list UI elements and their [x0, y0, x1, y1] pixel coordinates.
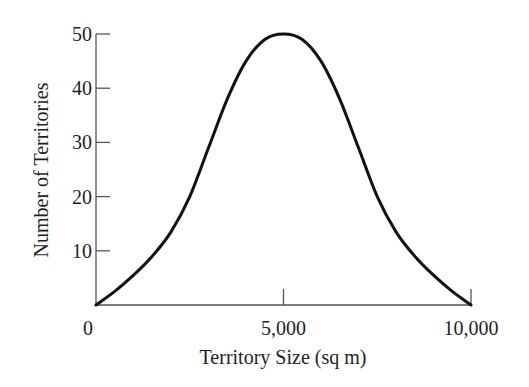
distribution-curve [96, 34, 471, 305]
x-ticks: 05,00010,000 [83, 289, 499, 339]
y-tick-label: 10 [72, 240, 92, 262]
y-tick-label: 40 [72, 77, 92, 99]
y-tick-label: 30 [72, 131, 92, 153]
x-tick-label: 0 [83, 317, 93, 339]
y-tick-label: 20 [72, 186, 92, 208]
y-axis-title: Number of Territories [30, 82, 52, 257]
x-tick-label: 10,000 [444, 317, 499, 339]
y-tick-label: 50 [72, 23, 92, 45]
chart: 1020304050 05,00010,000 Territory Size (… [0, 0, 529, 387]
x-axis-title: Territory Size (sq m) [200, 346, 367, 369]
y-ticks: 1020304050 [72, 23, 110, 262]
x-tick-label: 5,000 [261, 317, 306, 339]
